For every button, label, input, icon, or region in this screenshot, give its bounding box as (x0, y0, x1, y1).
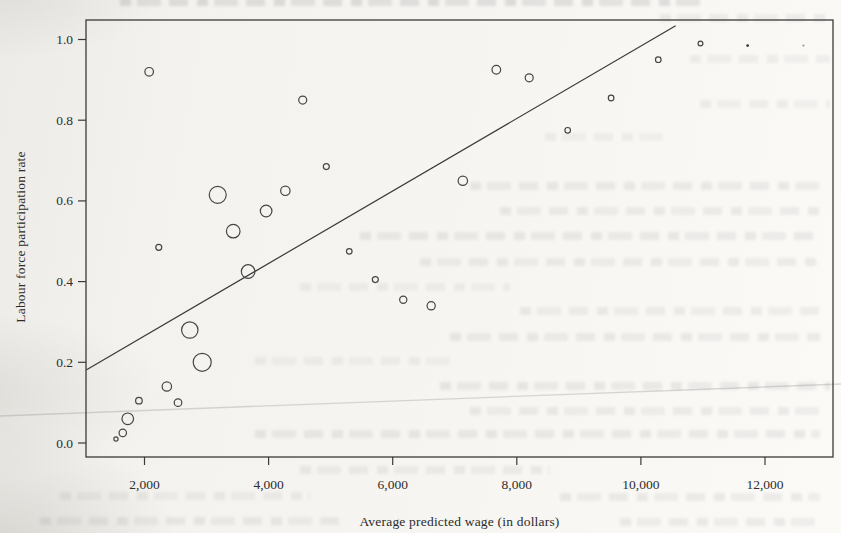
data-point (209, 186, 226, 203)
data-point (323, 164, 329, 170)
data-point (114, 437, 118, 441)
y-axis-title: Labour force participation rate (13, 87, 29, 387)
data-point (525, 74, 533, 82)
x-tick-label: 10,000 (622, 477, 659, 492)
plot-frame (86, 20, 833, 457)
data-point (174, 399, 182, 407)
x-tick-label: 4,000 (253, 477, 284, 492)
data-point (427, 302, 435, 310)
data-point (119, 429, 126, 436)
data-point (162, 382, 171, 391)
data-point (655, 57, 661, 63)
data-point (122, 413, 134, 425)
y-tick-label: 0.8 (56, 113, 73, 128)
x-axis-title: Average predicted wage (in dollars) (86, 514, 833, 530)
y-tick-label: 0.2 (56, 355, 73, 370)
data-point (565, 127, 571, 133)
data-point (698, 41, 703, 46)
data-point (281, 186, 290, 195)
data-point (260, 205, 272, 217)
y-tick-label: 0.6 (56, 193, 73, 208)
data-point (241, 265, 255, 279)
x-tick-label: 2,000 (129, 477, 160, 492)
data-point (299, 96, 307, 104)
y-tick-label: 0.0 (56, 436, 73, 451)
x-tick-label: 12,000 (746, 477, 783, 492)
data-point (608, 95, 614, 101)
data-point (182, 322, 198, 338)
data-point (346, 249, 352, 255)
scanned-page: 2,0004,0006,0008,00010,00012,0000.00.20.… (0, 0, 841, 533)
x-tick-label: 8,000 (502, 477, 533, 492)
data-point (193, 353, 211, 371)
data-point (458, 176, 467, 185)
scatter-plot: 2,0004,0006,0008,00010,00012,0000.00.20.… (0, 0, 841, 533)
x-tick-label: 6,000 (378, 477, 409, 492)
y-tick-label: 0.4 (56, 274, 73, 289)
data-point (156, 244, 162, 250)
data-point (746, 44, 749, 47)
data-point (802, 44, 804, 46)
data-point (372, 277, 378, 283)
data-point (400, 296, 407, 303)
regression-line (86, 26, 675, 370)
y-tick-label: 1.0 (56, 32, 73, 47)
data-point (136, 397, 143, 404)
data-point (492, 65, 501, 74)
data-point (145, 67, 154, 76)
scan-crease-line (0, 384, 841, 416)
data-point (226, 224, 240, 238)
